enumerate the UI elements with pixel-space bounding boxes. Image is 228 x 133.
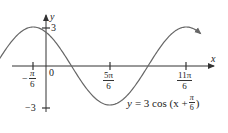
frac-denominator: 6 [182,81,187,91]
y-tick-label-neg3: −3 [25,103,36,113]
equation-rhs-suffix: ) [196,97,200,109]
frac-numerator: 11π [177,71,192,81]
frac-denominator: 6 [106,81,111,91]
equation-fraction: π 6 [189,94,195,112]
equation-rhs-prefix: = 3 cos (x + [135,97,188,109]
x-axis-label: x [211,54,215,64]
origin-label: 0 [49,68,54,78]
equation-lhs: y [127,97,132,109]
x-tick-label-5pi6: 5π 6 [103,71,114,91]
x-tick-label-11pi6: 11π 6 [177,71,192,91]
frac-denominator: 6 [30,79,35,89]
cosine-graph [0,0,228,133]
frac-denominator: 6 [190,103,194,112]
y-axis-label: y [50,12,54,22]
y-tick-label-3: 3 [51,23,56,33]
frac-numerator: 5π [103,71,114,81]
equation-label: y = 3 cos (x + π 6 ) [127,94,199,112]
x-tick-label-neg-pi6-sign: − [22,74,28,84]
x-tick-label-neg-pi6: π 6 [29,69,36,89]
frac-numerator: π [189,94,195,103]
frac-numerator: π [29,69,36,79]
